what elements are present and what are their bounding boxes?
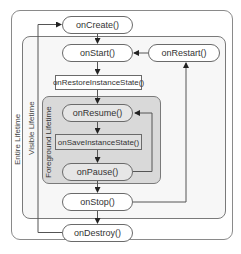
on-destroy-node: onDestroy() [62, 224, 133, 242]
on-pause-node: onPause() [62, 163, 133, 181]
on-save-instance-state-node: onSaveInstanceState() [55, 134, 142, 150]
entire-lifetime-label: Entire Lifetime [13, 114, 22, 165]
on-stop-node: onStop() [62, 193, 133, 211]
foreground-lifetime-label: Foreground Lifetime [44, 106, 53, 178]
on-restart-node: onRestart() [148, 44, 220, 62]
visible-lifetime-label: Visible Lifetime [27, 101, 36, 155]
on-restore-instance-state-node: onRestoreInstanceState() [55, 75, 142, 90]
on-resume-node: onResume() [62, 104, 133, 122]
on-create-node: onCreate() [62, 16, 133, 34]
on-start-node: onStart() [62, 44, 133, 62]
